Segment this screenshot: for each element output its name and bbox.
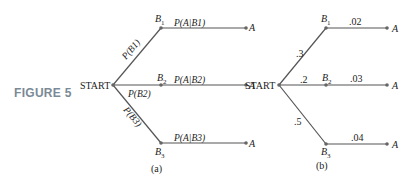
cond-label-a-b3: P(A|B3) <box>173 133 205 144</box>
node-leaf1-a <box>244 26 248 30</box>
edge-label-p-b1: P(B1) <box>119 37 143 62</box>
b3-label-b: B3 <box>321 146 331 160</box>
node-b3-a <box>159 141 163 145</box>
start-label-b: START <box>245 80 275 91</box>
node-leaf2-b <box>385 83 389 87</box>
node-leaf1-b <box>385 26 389 30</box>
node-start-a <box>111 83 115 87</box>
cond-label-a-b1: P(A|B1) <box>173 18 205 29</box>
leaf-label-a-3: A <box>248 138 256 149</box>
caption-b: (b) <box>316 160 328 172</box>
leaf-label-b-2: A <box>391 80 399 91</box>
cond-prob-b1: .02 <box>349 16 362 27</box>
start-label-a: START <box>80 80 110 91</box>
edge-label-p-b2: P(B2) <box>127 89 151 100</box>
tree-diagram-b: START B1 B2 B3 .3 .2 .5 .02 .03 .04 A A … <box>245 13 399 172</box>
edge-label-p-b3: P(B3) <box>120 104 144 129</box>
tree-diagram-a: START B1 B2 B3 P(B1) P(B2) P(B3) P(A|B1)… <box>80 13 256 175</box>
leaf-label-a-1b: A <box>248 22 256 33</box>
cond-prob-b3: .04 <box>351 132 364 143</box>
edge-start-b1-a <box>113 28 161 85</box>
caption-a: (a) <box>151 163 162 175</box>
edge-prob-b3: .5 <box>294 116 302 127</box>
leaf-label-b-3: A <box>391 139 399 150</box>
leaf-label-b-1: A <box>391 23 399 34</box>
node-leaf3-b <box>385 142 389 146</box>
b1-label-a: B1 <box>155 13 165 27</box>
probability-tree-diagrams: START B1 B2 B3 P(B1) P(B2) P(B3) P(A|B1)… <box>0 0 414 181</box>
node-start-b <box>277 83 281 87</box>
b1-label-b: B1 <box>321 13 331 27</box>
b3-label-a: B3 <box>155 146 165 160</box>
cond-label-a-b2: P(A|B2) <box>173 75 205 86</box>
edge-start-b3-b <box>279 85 326 144</box>
node-leaf3-a <box>244 141 248 145</box>
edge-prob-b2: .2 <box>300 74 308 85</box>
edge-prob-b1: .3 <box>296 48 304 59</box>
cond-prob-b2: .03 <box>350 73 363 84</box>
